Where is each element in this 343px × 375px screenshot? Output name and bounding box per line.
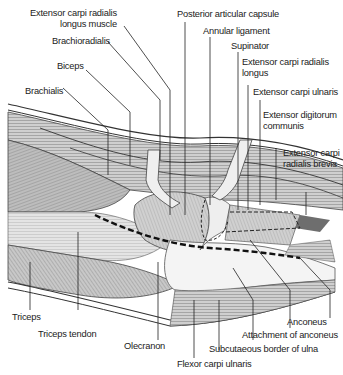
label-extensor-carpi-radialis-longus-muscle: Extensor carpi radialis longus muscle	[30, 8, 117, 29]
label-line: Extensor carpi radialis	[242, 57, 329, 68]
label-triceps: Triceps	[12, 312, 41, 323]
label-line: Extensor digitorum	[263, 110, 337, 121]
label-anconeus: Anconeus	[287, 317, 327, 328]
label-olecranon: Olecranon	[124, 341, 165, 352]
label-biceps: Biceps	[57, 61, 84, 72]
label-line: Extensor carpi	[283, 148, 340, 159]
label-triceps-tendon: Triceps tendon	[38, 329, 96, 340]
label-annular-ligament: Annular ligament	[203, 26, 270, 37]
label-extensor-carpi-ulnaris: Extensor carpi ulnaris	[253, 87, 338, 98]
label-subcutaneous-border-of-ulna: Subcutaeous border of ulna	[209, 344, 318, 355]
label-line: communis	[263, 121, 337, 132]
label-line: longus	[242, 68, 329, 79]
label-attachment-of-anconeus: Attachment of anconeus	[242, 330, 338, 341]
label-extensor-digitorum-communis: Extensor digitorum communis	[263, 110, 337, 131]
label-line: Extensor carpi radialis	[30, 8, 117, 19]
label-line: radialis brevis	[283, 159, 340, 170]
label-extensor-carpi-radialis-longus: Extensor carpi radialis longus	[242, 57, 329, 78]
label-extensor-carpi-radialis-brevis: Extensor carpi radialis brevis	[283, 148, 340, 169]
label-line: longus muscle	[30, 19, 117, 30]
label-supinator: Supinator	[231, 41, 269, 52]
label-brachialis: Brachialis	[25, 86, 63, 97]
label-brachioradialis: Brachioradialis	[52, 36, 110, 47]
label-posterior-articular-capsule: Posterior articular capsule	[177, 9, 279, 20]
label-flexor-carpi-ulnaris: Flexor carpi ulnaris	[177, 359, 252, 370]
